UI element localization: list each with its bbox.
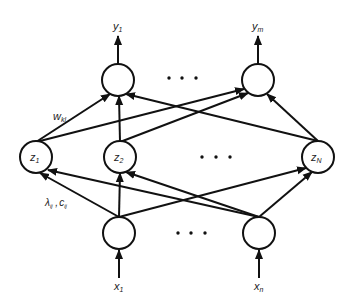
input-node-x1	[103, 217, 135, 249]
hidden-output-edges	[36, 89, 318, 142]
input-hidden-edges	[40, 168, 312, 217]
label-weight-wkl: wkl	[53, 110, 66, 123]
label-ym: ym	[251, 20, 264, 33]
input-node-xn	[243, 217, 275, 249]
label-lambda-c: λij ,cij	[44, 197, 67, 209]
label-xn: xn	[253, 280, 264, 293]
output-node-y1	[102, 64, 134, 96]
input-ellipsis	[176, 231, 206, 234]
output-node-ym	[242, 64, 274, 96]
label-y1: y1	[112, 20, 123, 33]
neural-network-diagram: y1 ym z1 z2 zN x1 xn wkl λij ,cij	[0, 0, 352, 307]
hidden-ellipsis	[200, 155, 231, 158]
output-ellipsis	[167, 76, 197, 79]
label-x1: x1	[113, 280, 124, 293]
